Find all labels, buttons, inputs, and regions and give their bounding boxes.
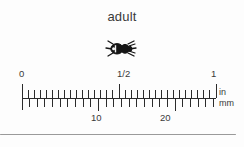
inch-tick-label-0: 0 bbox=[19, 68, 24, 79]
mm-unit-label: mm bbox=[219, 98, 234, 108]
inch-unit-label: in bbox=[219, 87, 226, 97]
mm-tick-label-10: 10 bbox=[91, 112, 102, 123]
inch-tick-label-1: 1 bbox=[211, 68, 216, 79]
scale-figure: adult bbox=[0, 0, 244, 147]
mm-tick-label-20: 20 bbox=[160, 112, 171, 123]
figure-title: adult bbox=[0, 9, 244, 24]
beetle-icon bbox=[104, 40, 140, 58]
horizontal-divider bbox=[0, 134, 236, 135]
inch-tick-label-half: 1/2 bbox=[117, 68, 130, 79]
